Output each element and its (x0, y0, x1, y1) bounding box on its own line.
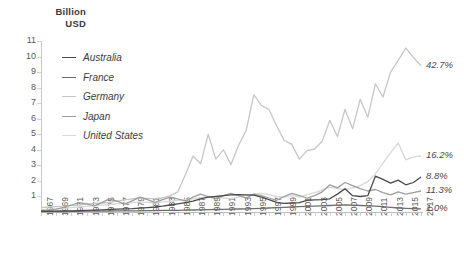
legend-item[interactable]: France (62, 68, 143, 88)
legend-label: Japan (83, 111, 110, 122)
legend-line-swatch (62, 77, 76, 78)
legend-label: Germany (83, 91, 124, 102)
line-chart: BillionUSD 1234567891011 196719691971197… (0, 0, 464, 263)
legend-item[interactable]: Australia (62, 48, 143, 68)
legend-item[interactable]: United States (62, 126, 143, 146)
legend-label: United States (83, 130, 143, 141)
legend-line-swatch (62, 57, 76, 58)
legend-label: France (83, 72, 114, 83)
legend-line-swatch (62, 135, 76, 136)
series-end-label: 16.2% (426, 149, 453, 160)
series-line-united-states (41, 143, 421, 210)
legend-line-swatch (62, 96, 76, 97)
legend-label: Australia (83, 52, 122, 63)
series-end-label: 42.7% (426, 59, 453, 70)
chart-legend: AustraliaFranceGermanyJapanUnited States (62, 48, 143, 146)
series-end-label: 8.8% (426, 170, 448, 181)
series-end-label: 1.0% (426, 202, 448, 213)
legend-item[interactable]: Germany (62, 87, 143, 107)
series-end-label: 11.3% (426, 184, 452, 195)
legend-line-swatch (62, 116, 76, 117)
legend-item[interactable]: Japan (62, 107, 143, 127)
